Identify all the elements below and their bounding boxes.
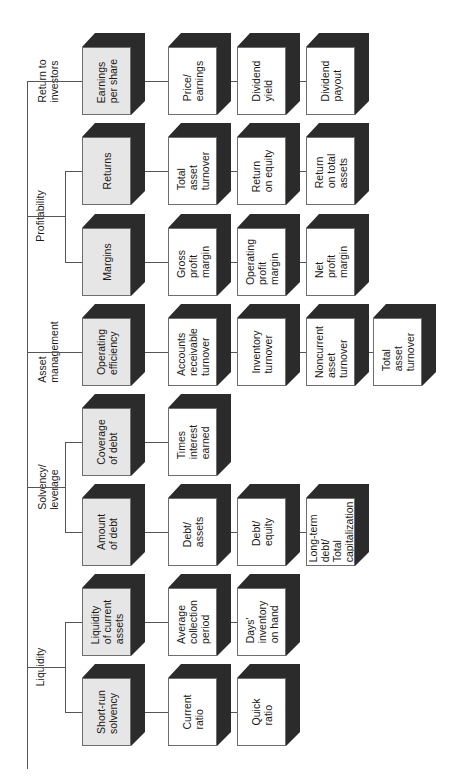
box-label: Quick ratio — [250, 699, 274, 726]
category-box: Margins — [82, 228, 131, 296]
financial-ratio-tree: Return to investorsEarnings per sharePri… — [0, 0, 460, 783]
category-box: Operating efficiency — [82, 318, 131, 386]
box-face: Return on equity — [237, 137, 286, 205]
ratio-box: Accounts receivable turnover — [168, 318, 217, 386]
category-box: Short-run solvency — [82, 678, 131, 746]
ratio-box: Total asset turnover — [168, 137, 217, 205]
box-label: Days' inventory on hand — [244, 601, 280, 644]
box-face: Quick ratio — [237, 678, 286, 746]
box-face: Current ratio — [168, 678, 217, 746]
box-face: Returns — [82, 137, 131, 205]
ratio-box: Debt/ equity — [237, 498, 286, 566]
ratio-box: Times interest earned — [168, 408, 217, 476]
box-face: Inventory turnover — [237, 318, 286, 386]
ratio-box: Debt/ assets — [168, 498, 217, 566]
ratio-box: Return on equity — [237, 137, 286, 205]
ratio-box: Quick ratio — [237, 678, 286, 746]
box-face: Total asset turnover — [373, 318, 422, 386]
box-label: Long-term debt/ Total capitalization — [307, 502, 355, 563]
box-label: Returns — [101, 153, 113, 190]
box-face: Times interest earned — [168, 408, 217, 476]
branch-line — [27, 667, 65, 668]
box-face: Debt/ equity — [237, 498, 286, 566]
box-label: Times interest earned — [175, 425, 211, 459]
box-label: Dividend yield — [250, 61, 274, 102]
sub-branch-line — [65, 622, 66, 712]
box-face: Accounts receivable turnover — [168, 318, 217, 386]
ratio-box: Dividend payout — [306, 47, 355, 115]
box-face: Operating profit margin — [237, 228, 286, 296]
box-label: Average collection period — [175, 600, 211, 644]
box-face: Gross profit margin — [168, 228, 217, 296]
box-label: Net profit margin — [313, 246, 349, 278]
box-face: Coverage of debt — [82, 408, 131, 476]
box-label: Operating profit margin — [244, 239, 280, 285]
box-face: Net profit margin — [306, 228, 355, 296]
box-label: Amount of debt — [95, 514, 119, 550]
box-label: Debt/ equity — [250, 518, 274, 546]
branch-line — [27, 487, 65, 488]
box-label: Current ratio — [181, 694, 205, 729]
box-face: Debt/ assets — [168, 498, 217, 566]
box-label: Debt/ assets — [181, 517, 205, 547]
box-label: Price/ earnings — [181, 61, 205, 101]
box-label: Margins — [101, 243, 113, 280]
box-face: Earnings per share — [82, 47, 131, 115]
box-label: Total asset turnover — [175, 152, 211, 191]
box-label: Return on total assets — [313, 154, 349, 188]
branch-line — [27, 216, 65, 217]
box-face: Noncurrent asset turnover — [306, 318, 355, 386]
ratio-box: Operating profit margin — [237, 228, 286, 296]
ratio-box: Days' inventory on hand — [237, 588, 286, 656]
sub-branch-line — [65, 442, 66, 532]
box-face: Average collection period — [168, 588, 217, 656]
box-label: Total asset turnover — [380, 333, 416, 372]
ratio-box: Dividend yield — [237, 47, 286, 115]
box-face: Price/ earnings — [168, 47, 217, 115]
box-face: Total asset turnover — [168, 137, 217, 205]
box-face: Long-term debt/ Total capitalization — [306, 498, 355, 566]
box-label: Operating efficiency — [95, 329, 119, 375]
ratio-box: Average collection period — [168, 588, 217, 656]
box-face: Amount of debt — [82, 498, 131, 566]
ratio-box: Net profit margin — [306, 228, 355, 296]
ratio-box: Noncurrent asset turnover — [306, 318, 355, 386]
box-face: Liquidity of current assets — [82, 588, 131, 656]
category-box: Coverage of debt — [82, 408, 131, 476]
box-label: Coverage of debt — [95, 419, 119, 465]
sub-branch-line — [65, 171, 66, 262]
box-label: Dividend payout — [319, 61, 343, 102]
box-face: Dividend yield — [237, 47, 286, 115]
ratio-box: Long-term debt/ Total capitalization — [306, 498, 355, 566]
box-label: Return on equity — [250, 150, 274, 193]
box-face: Days' inventory on hand — [237, 588, 286, 656]
box-face: Short-run solvency — [82, 678, 131, 746]
trunk-line — [27, 81, 28, 769]
box-label: Accounts receivable turnover — [175, 328, 211, 376]
category-box: Liquidity of current assets — [82, 588, 131, 656]
box-label: Short-run solvency — [95, 690, 119, 734]
ratio-box: Total asset turnover — [373, 318, 422, 386]
box-face: Return on total assets — [306, 137, 355, 205]
category-box: Amount of debt — [82, 498, 131, 566]
box-label: Noncurrent asset turnover — [313, 326, 349, 378]
box-label: Inventory turnover — [250, 330, 274, 373]
ratio-box: Return on total assets — [306, 137, 355, 205]
box-face: Dividend payout — [306, 47, 355, 115]
box-face: Operating efficiency — [82, 318, 131, 386]
box-label: Earnings per share — [95, 59, 119, 103]
ratio-box: Inventory turnover — [237, 318, 286, 386]
box-label: Gross profit margin — [175, 246, 211, 278]
box-face: Margins — [82, 228, 131, 296]
box-label: Liquidity of current assets — [89, 600, 125, 644]
ratio-box: Current ratio — [168, 678, 217, 746]
category-box: Returns — [82, 137, 131, 205]
category-box: Earnings per share — [82, 47, 131, 115]
ratio-box: Price/ earnings — [168, 47, 217, 115]
ratio-box: Gross profit margin — [168, 228, 217, 296]
